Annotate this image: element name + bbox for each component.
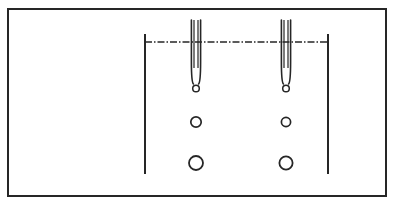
- line-diagram-canvas: [0, 0, 394, 205]
- nozzle-left-tip-bubble: [193, 85, 200, 92]
- figure-container: [0, 0, 394, 205]
- figure-background: [0, 0, 394, 205]
- nozzle-right-tip-bubble: [283, 85, 290, 92]
